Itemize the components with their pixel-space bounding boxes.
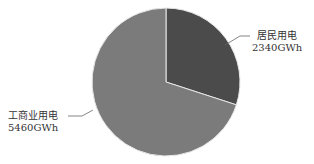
label-residential: 居民用电 2340GWh [252, 30, 302, 54]
pie-svg [0, 0, 314, 164]
label-residential-value: 2340GWh [252, 42, 302, 54]
label-commercial-value: 5460GWh [8, 122, 58, 134]
pie-chart: 居民用电 2340GWh 工商业用电 5460GWh [0, 0, 314, 164]
label-commercial: 工商业用电 5460GWh [8, 110, 58, 134]
label-commercial-name: 工商业用电 [8, 110, 58, 122]
leader-line-commercial [68, 110, 93, 116]
label-residential-name: 居民用电 [252, 30, 302, 42]
